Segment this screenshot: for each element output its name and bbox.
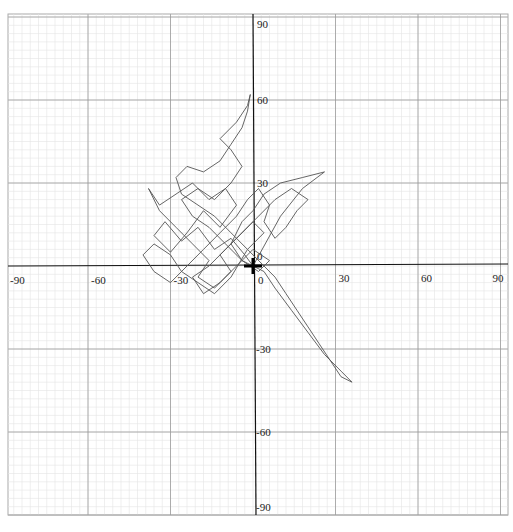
stabilogram-chart: -90-60-300306090 9060300-30-60-90 [0, 0, 513, 532]
x-tick-label: 90 [493, 272, 505, 284]
x-tick-label: 60 [421, 272, 433, 284]
y-tick-label: 60 [257, 94, 269, 106]
x-tick-label: -90 [10, 274, 25, 286]
y-tick-label: -60 [256, 426, 271, 438]
y-tick-label: -30 [256, 343, 271, 355]
x-tick-label: 30 [339, 272, 351, 284]
x-tick-label: 0 [258, 274, 264, 286]
x-tick-label: -60 [91, 274, 106, 286]
y-tick-label: 90 [257, 18, 269, 30]
x-tick-label: -30 [174, 274, 189, 286]
y-tick-label: -90 [256, 501, 271, 513]
y-tick-label: 30 [257, 177, 269, 189]
